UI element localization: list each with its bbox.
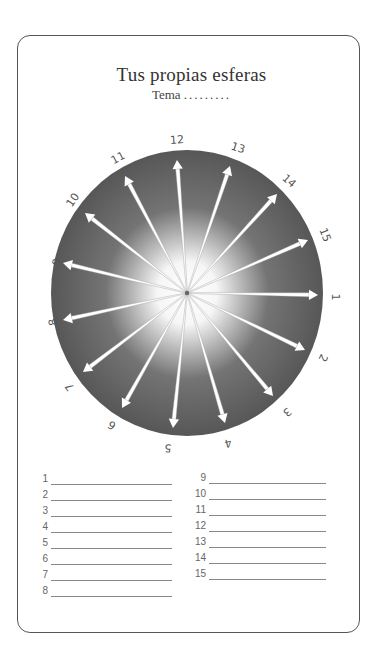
spoke-label: 8 bbox=[46, 317, 60, 327]
answer-number: 6 bbox=[28, 553, 48, 564]
answer-blank-line[interactable] bbox=[209, 563, 326, 564]
answer-number: 7 bbox=[28, 569, 48, 580]
center-hub bbox=[185, 291, 189, 295]
answer-blank-line[interactable] bbox=[51, 532, 172, 533]
spoke-label: 12 bbox=[170, 133, 185, 147]
answer-blank-line[interactable] bbox=[51, 500, 172, 501]
answer-blank-line[interactable] bbox=[209, 515, 326, 516]
answer-number: 12 bbox=[186, 520, 206, 531]
spoke-label: 15 bbox=[316, 226, 333, 244]
answer-number: 3 bbox=[28, 505, 48, 516]
answer-blank-line[interactable] bbox=[51, 548, 172, 549]
spoke-label: 13 bbox=[229, 140, 246, 157]
answer-number: 10 bbox=[186, 488, 206, 499]
answer-number: 1 bbox=[28, 473, 48, 484]
answer-number: 15 bbox=[186, 568, 206, 579]
spoke-label: 14 bbox=[279, 171, 298, 190]
spoke-label: 2 bbox=[316, 352, 331, 364]
answer-blank-line[interactable] bbox=[209, 547, 326, 548]
answer-number: 9 bbox=[186, 472, 206, 483]
answer-blank-line[interactable] bbox=[209, 579, 326, 580]
answer-number: 4 bbox=[28, 521, 48, 532]
spoke-label: 7 bbox=[63, 380, 78, 393]
spoke-label: 5 bbox=[164, 441, 172, 455]
answer-number: 13 bbox=[186, 536, 206, 547]
answer-blank-line[interactable] bbox=[209, 483, 326, 484]
answer-number: 5 bbox=[28, 537, 48, 548]
spoke-label: 4 bbox=[223, 436, 233, 450]
answer-blank-line[interactable] bbox=[209, 531, 326, 532]
answer-blank-line[interactable] bbox=[51, 580, 172, 581]
spoke-label: 11 bbox=[109, 149, 127, 167]
answer-number: 2 bbox=[28, 489, 48, 500]
spoke-label: 6 bbox=[106, 418, 119, 433]
spoke-label: 1 bbox=[329, 294, 342, 301]
answer-number: 11 bbox=[186, 504, 206, 515]
answer-number: 8 bbox=[28, 585, 48, 596]
answer-number: 14 bbox=[186, 552, 206, 563]
answer-blank-line[interactable] bbox=[51, 484, 172, 485]
spoke-label: 3 bbox=[280, 405, 294, 419]
answer-blank-line[interactable] bbox=[51, 516, 172, 517]
answer-blank-line[interactable] bbox=[51, 564, 172, 565]
answer-blank-line[interactable] bbox=[51, 596, 172, 597]
answer-blank-line[interactable] bbox=[209, 499, 326, 500]
